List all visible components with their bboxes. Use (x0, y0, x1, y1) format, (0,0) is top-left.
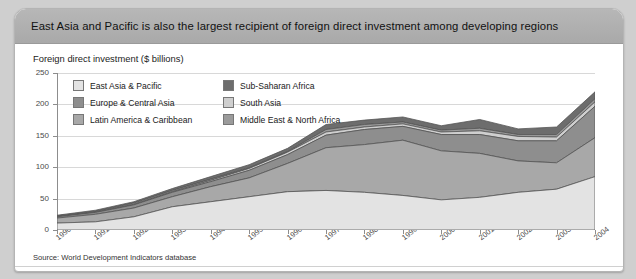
y-axis-label: 100 (27, 162, 49, 171)
y-axis-label: 250 (27, 68, 49, 77)
figure-title: East Asia and Pacific is also the larges… (15, 20, 570, 32)
legend-swatch-icon (223, 97, 234, 108)
legend-swatch-icon (73, 97, 84, 108)
legend-label: Middle East & North Africa (240, 115, 340, 125)
chart-subtitle: Foreign direct investment ($ billions) (33, 53, 184, 64)
legend-label: East Asia & Pacific (90, 81, 162, 91)
legend-item: Latin America & Caribbean (73, 114, 223, 125)
legend-item: Europe & Central Asia (73, 97, 223, 108)
chart-plot-area: 050100150200250 199019911992199319941995… (33, 69, 609, 245)
legend-item: Sub-Saharan Africa (223, 80, 403, 91)
figure-card: East Asia and Pacific is also the larges… (14, 8, 624, 272)
legend-swatch-icon (73, 80, 84, 91)
y-axis-label: 0 (27, 225, 49, 234)
y-axis-label: 50 (27, 194, 49, 203)
source-note: Source: World Development Indicators dat… (33, 253, 196, 262)
legend-swatch-icon (73, 114, 84, 125)
figure-header-bar: East Asia and Pacific is also the larges… (15, 9, 623, 44)
legend-item: Middle East & North Africa (223, 114, 403, 125)
y-axis-label: 200 (27, 99, 49, 108)
legend-label: Europe & Central Asia (90, 98, 175, 108)
source-divider (15, 266, 623, 267)
legend-swatch-icon (223, 80, 234, 91)
legend-label: Latin America & Caribbean (90, 115, 192, 125)
legend-item: East Asia & Pacific (73, 80, 223, 91)
chart-legend: East Asia & PacificSub-Saharan AfricaEur… (73, 77, 403, 128)
legend-label: South Asia (240, 98, 281, 108)
y-axis-label: 150 (27, 131, 49, 140)
legend-item: South Asia (223, 97, 403, 108)
legend-label: Sub-Saharan Africa (240, 81, 315, 91)
legend-swatch-icon (223, 114, 234, 125)
